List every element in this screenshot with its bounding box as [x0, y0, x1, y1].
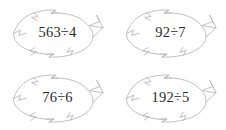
leaf-grid: 563÷4 92÷7 — [0, 0, 226, 130]
leaf-item-bottom-right[interactable]: 192÷5 — [113, 65, 226, 130]
leaf-item-top-left[interactable]: 563÷4 — [0, 0, 113, 65]
worksheet-canvas: 563÷4 92÷7 — [0, 0, 226, 130]
leaf-expression-label: 192÷5 — [113, 65, 226, 130]
leaf-item-bottom-left[interactable]: 76÷6 — [0, 65, 113, 130]
leaf-item-top-right[interactable]: 92÷7 — [113, 0, 226, 65]
leaf-expression-label: 92÷7 — [113, 0, 226, 65]
leaf-expression-label: 563÷4 — [0, 0, 113, 65]
leaf-expression-label: 76÷6 — [0, 65, 113, 130]
